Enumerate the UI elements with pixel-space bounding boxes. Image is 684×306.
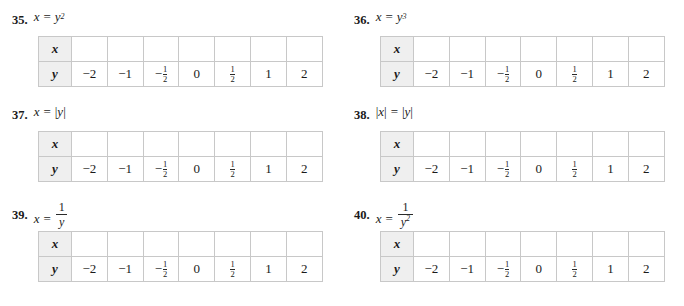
problem-40-table-wrap: x y −2 −1 −12 [380, 231, 684, 282]
row-label-y: y [381, 62, 414, 87]
cell-x-6[interactable] [286, 232, 322, 257]
cell-y-2: −12 [143, 257, 179, 282]
cell-y-1: −1 [449, 157, 485, 182]
fraction-half: 12 [505, 65, 509, 83]
problem-39-operator: = [43, 212, 50, 225]
fraction-half: 12 [163, 65, 167, 83]
cell-x-6[interactable] [628, 37, 664, 62]
table-row-y: y −2 −1 −12 0 12 1 2 [381, 62, 665, 87]
cell-x-2[interactable] [485, 232, 521, 257]
fraction-numerator: 1 [163, 160, 167, 169]
cell-x-1[interactable] [107, 37, 143, 62]
problem-35-operator: = [43, 10, 50, 23]
cell-x-5[interactable] [592, 232, 628, 257]
cell-x-2[interactable] [485, 37, 521, 62]
cell-x-5[interactable] [592, 37, 628, 62]
problem-40-operator: = [385, 212, 392, 225]
cell-y-0: −2 [414, 257, 450, 282]
cell-x-1[interactable] [449, 232, 485, 257]
fraction-denominator: y [56, 214, 67, 228]
cell-x-2[interactable] [485, 132, 521, 157]
problem-36-equation: x = y3 [376, 10, 407, 23]
cell-x-0[interactable] [72, 232, 108, 257]
problem-36-operator: = [385, 10, 392, 23]
cell-x-4[interactable] [215, 37, 251, 62]
problem-39-lhs: x [34, 212, 40, 225]
problem-35-lhs: x [34, 10, 40, 23]
problem-40-equation: x = 1 y2 [376, 205, 414, 232]
cell-x-6[interactable] [286, 37, 322, 62]
cell-x-6[interactable] [628, 132, 664, 157]
cell-x-3[interactable] [179, 37, 215, 62]
cell-x-2[interactable] [143, 37, 179, 62]
cell-x-0[interactable] [414, 132, 450, 157]
problem-37: 37. x = |y| x [0, 95, 342, 195]
cell-x-1[interactable] [449, 132, 485, 157]
problem-38-table-wrap: x y −2 −1 −12 [380, 131, 684, 182]
denominator-base: y [59, 215, 64, 229]
fraction-denominator: 2 [230, 269, 234, 279]
fraction-numerator: 1 [163, 65, 167, 74]
row-label-x: x [39, 232, 72, 257]
problem-36-lhs: x [376, 10, 382, 23]
fraction-denominator: 2 [572, 169, 576, 179]
fraction-denominator: 2 [230, 74, 234, 84]
fraction-numerator: 1 [505, 160, 509, 169]
cell-x-5[interactable] [250, 132, 286, 157]
cell-x-4[interactable] [557, 37, 593, 62]
cell-x-6[interactable] [628, 232, 664, 257]
cell-x-5[interactable] [250, 37, 286, 62]
fraction-denominator: 2 [572, 269, 576, 279]
cell-y-6: 2 [628, 62, 664, 87]
cell-x-4[interactable] [215, 132, 251, 157]
fraction-numerator: 1 [56, 201, 68, 214]
cell-x-1[interactable] [107, 132, 143, 157]
table-row-x: x [39, 132, 323, 157]
cell-x-5[interactable] [250, 232, 286, 257]
fraction-denominator: 2 [505, 169, 509, 179]
problem-35: 35. x = y2 x [0, 0, 342, 95]
problem-39-table-wrap: x y −2 −1 −12 [38, 231, 342, 282]
cell-y-5: 1 [592, 257, 628, 282]
cell-y-4: 12 [557, 257, 593, 282]
row-label-x: x [381, 132, 414, 157]
cell-x-0[interactable] [72, 37, 108, 62]
cell-x-6[interactable] [286, 132, 322, 157]
cell-x-1[interactable] [449, 37, 485, 62]
cell-x-4[interactable] [215, 232, 251, 257]
cell-y-4: 12 [215, 62, 251, 87]
fraction-half: 12 [163, 260, 167, 278]
cell-y-6: 2 [286, 257, 322, 282]
cell-x-0[interactable] [414, 232, 450, 257]
abs-bar-right-lhs: | [384, 105, 387, 118]
cell-x-3[interactable] [521, 132, 557, 157]
cell-x-4[interactable] [557, 232, 593, 257]
problem-38-heading: 38. |x| = |y| [354, 105, 684, 127]
cell-y-3: 0 [179, 257, 215, 282]
cell-x-0[interactable] [414, 37, 450, 62]
cell-y-0: −2 [72, 257, 108, 282]
problem-35-heading: 35. x = y2 [12, 10, 342, 32]
cell-x-2[interactable] [143, 232, 179, 257]
problem-35-rhs-base: y [55, 10, 61, 23]
cell-x-5[interactable] [592, 132, 628, 157]
fraction-numerator: 1 [572, 160, 576, 169]
cell-x-4[interactable] [557, 132, 593, 157]
fraction-numerator: 1 [399, 201, 411, 214]
value-table: x y −2 −1 −12 [380, 231, 665, 282]
cell-x-3[interactable] [521, 232, 557, 257]
row-label-x: x [381, 232, 414, 257]
cell-x-3[interactable] [179, 232, 215, 257]
cell-y-4: 12 [215, 257, 251, 282]
cell-x-3[interactable] [179, 132, 215, 157]
minus-sign: − [497, 66, 504, 82]
problem-39-fraction: 1 y [56, 201, 68, 228]
cell-y-3: 0 [521, 257, 557, 282]
cell-x-2[interactable] [143, 132, 179, 157]
cell-x-1[interactable] [107, 232, 143, 257]
cell-y-1: −1 [107, 62, 143, 87]
neg-half: −12 [497, 160, 510, 178]
cell-x-3[interactable] [521, 37, 557, 62]
cell-x-0[interactable] [72, 132, 108, 157]
table-row-x: x [381, 132, 665, 157]
